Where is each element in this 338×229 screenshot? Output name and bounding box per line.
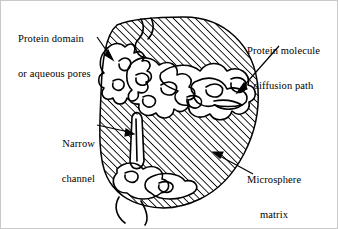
narrow-channel-label: Narrow channel (37, 115, 95, 207)
figure-canvas: Protein domain or aqueous pores Protein … (0, 0, 338, 229)
diffusion-path-label-line1: Protein molecule (247, 45, 320, 57)
narrow-channel-label-line2: channel (37, 173, 95, 185)
microsphere-matrix-label: Microsphere matrix (247, 151, 301, 229)
microsphere-matrix-label-line2: matrix (247, 209, 301, 221)
narrow-channel-label-line1: Narrow (37, 138, 95, 150)
protein-domain-label: Protein domain or aqueous pores (18, 10, 91, 102)
protein-domain-label-line2: or aqueous pores (18, 68, 91, 80)
diffusion-path-label-line2: diffusion path (247, 80, 320, 92)
microsphere-matrix-label-line1: Microsphere (247, 174, 301, 186)
diffusion-path-label: Protein molecule diffusion path (247, 22, 320, 114)
microsphere-matrix-shape (91, 9, 271, 219)
protein-domain-label-line1: Protein domain (18, 33, 91, 45)
